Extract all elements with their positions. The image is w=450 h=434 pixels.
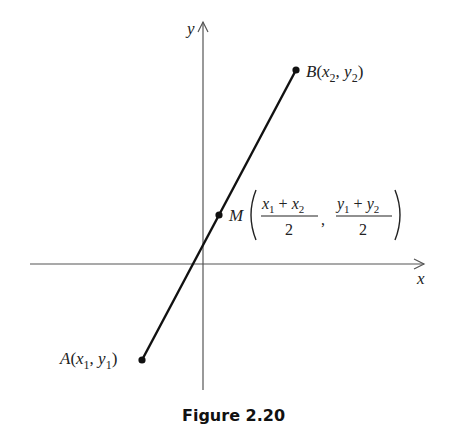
fraction-2-numerator: y1 + y2 (335, 195, 379, 215)
right-paren (395, 190, 400, 240)
figure-caption: Figure 2.20 (182, 406, 285, 425)
point-m-name: M (228, 206, 244, 225)
fraction-2-denominator: 2 (359, 221, 367, 238)
point-m: M x1 + x2 2 , y1 + y2 2 (215, 190, 400, 240)
y-axis: y (185, 19, 208, 390)
point-b: B(x2, y2) (292, 62, 363, 85)
point-a-dot (138, 356, 145, 363)
fraction-1-numerator: x1 + x2 (261, 195, 304, 215)
left-paren (251, 190, 256, 240)
point-b-label: B(x2, y2) (306, 62, 363, 85)
point-m-dot (215, 211, 222, 218)
midpoint-diagram: x y B(x2, y2) A(x1, y1) M x1 + x2 2 , (0, 0, 450, 434)
fraction-1-denominator: 2 (285, 221, 293, 238)
y-axis-label: y (185, 19, 195, 38)
separator: , (321, 211, 325, 228)
point-a-label: A(x1, y1) (59, 349, 117, 372)
x-axis-label: x (416, 269, 425, 288)
point-b-dot (292, 66, 299, 73)
point-a: A(x1, y1) (59, 349, 146, 372)
x-axis: x (30, 259, 425, 288)
